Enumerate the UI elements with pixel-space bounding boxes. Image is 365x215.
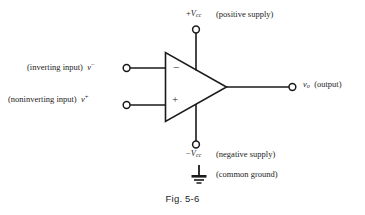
positive-supply-symbol: +Vcc: [186, 9, 202, 18]
common-ground-description: (common ground): [216, 170, 278, 179]
noninverting-input-label: (noninverting input) v+: [8, 94, 88, 103]
output-description: (output): [314, 79, 341, 89]
output-symbol-subscript: o: [307, 83, 310, 89]
negative-supply-symbol-subscript: cc: [196, 152, 202, 158]
op-amp-figure: − + +Vcc (positive supply) (inverting in…: [0, 0, 365, 215]
inverting-input-description: (inverting input): [27, 62, 83, 72]
output-terminal: [289, 84, 296, 91]
inverting-input-terminal: [123, 65, 130, 72]
circuit-schematic: [0, 0, 365, 215]
inverting-input-symbol-superscript: −: [91, 61, 95, 68]
noninverting-input-description: (noninverting input): [8, 94, 77, 104]
output-label: vo (output): [303, 80, 342, 89]
figure-caption: Fig. 5-6: [0, 193, 365, 204]
negative-supply-description: (negative supply): [216, 150, 275, 159]
negative-supply-symbol: −Vcc: [186, 149, 202, 158]
opamp-inverting-sign: −: [173, 62, 179, 73]
noninverting-input-terminal: [123, 102, 130, 109]
ground-symbol: [192, 165, 207, 183]
noninverting-input-symbol-superscript: +: [85, 93, 89, 100]
negative-supply-terminal: [193, 141, 200, 148]
positive-supply-symbol-subscript: cc: [196, 12, 202, 18]
positive-supply-terminal: [193, 26, 200, 33]
positive-supply-description: (positive supply): [216, 10, 273, 19]
inverting-input-label: (inverting input) v−: [27, 62, 95, 71]
opamp-noninverting-sign: +: [172, 94, 178, 105]
